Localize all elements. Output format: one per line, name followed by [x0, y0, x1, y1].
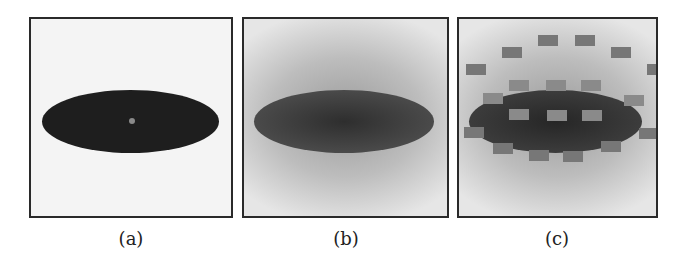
panel-c [457, 17, 658, 218]
panel-b [242, 17, 449, 218]
rect-patch [538, 35, 558, 46]
rect-patch [575, 35, 595, 46]
rect-patch [547, 110, 567, 121]
panel-a [29, 17, 233, 218]
rect-patch [582, 110, 602, 121]
rect-patch [639, 128, 658, 139]
rect-patch [563, 151, 583, 162]
rect-patch [466, 64, 486, 75]
rect-patch [581, 80, 601, 91]
rect-patch [509, 109, 529, 120]
rect-patch [647, 64, 658, 75]
panel-b-label: (b) [316, 228, 376, 249]
blurred-ellipse [254, 90, 434, 153]
rect-patch [611, 47, 631, 58]
rect-patch [529, 150, 549, 161]
rect-patch [483, 93, 503, 104]
rect-patch [493, 143, 513, 154]
rect-patch [624, 95, 644, 106]
rect-patch [546, 80, 566, 91]
rect-patch [502, 47, 522, 58]
center-dot [129, 118, 135, 124]
rect-patch [601, 141, 621, 152]
rect-patch [464, 127, 484, 138]
panel-a-label: (a) [101, 228, 161, 249]
rect-patch [509, 80, 529, 91]
panel-c-label: (c) [527, 228, 587, 249]
